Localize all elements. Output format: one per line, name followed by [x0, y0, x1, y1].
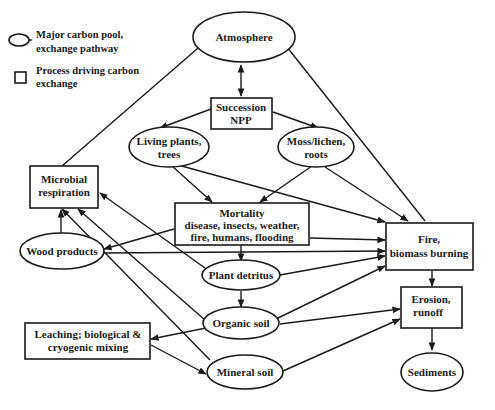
mineral-soil-label: Mineral soil [217, 366, 274, 378]
living-plants-label-1: Living plants, [137, 135, 202, 147]
legend: Major carbon pool, exchange pathway Proc… [9, 29, 139, 89]
erosion-label-1: Erosion, [411, 293, 450, 305]
living-plants-label-2: trees [158, 148, 181, 160]
legend-pool-line2: exchange pathway [36, 43, 119, 54]
edge-organic-erosion [280, 309, 400, 324]
leaching-label-2: cryogenic mixing [48, 341, 129, 353]
node-erosion: Erosion, runoff [401, 287, 462, 328]
edge-mortality-fire [310, 238, 385, 240]
fire-label-1: Fire, [418, 233, 440, 245]
node-microbial-respiration: Microbial respiration [30, 166, 98, 208]
node-mineral-soil: Mineral soil [207, 355, 283, 389]
mortality-label-3: fire, humans, flooding [190, 231, 294, 243]
moss-label-1: Moss/lichen, [287, 135, 346, 147]
node-plant-detritus: Plant detritus [202, 260, 280, 290]
microbial-label-2: respiration [38, 186, 90, 198]
edge-wood-fire [103, 251, 385, 253]
edge-mineral-erosion [283, 319, 400, 371]
organic-soil-label: Organic soil [212, 317, 269, 329]
moss-label-2: roots [304, 148, 328, 160]
edge-leaching-mineral [151, 345, 206, 374]
wood-products-label: Wood products [26, 245, 98, 257]
node-atmosphere: Atmosphere [193, 12, 295, 62]
edge-moss-fire [325, 167, 408, 221]
edge-moss-mortality [260, 166, 312, 202]
microbial-label-1: Microbial [41, 173, 87, 185]
fire-label-2: biomass burning [390, 247, 469, 259]
atmosphere-label: Atmosphere [215, 31, 272, 43]
node-succession-npp: Succession NPP [211, 98, 272, 129]
node-wood-products: Wood products [20, 233, 104, 269]
node-moss-lichen: Moss/lichen, roots [278, 127, 354, 167]
node-mortality: Mortality disease, insects, weather, fir… [175, 203, 309, 245]
plant-detritus-label: Plant detritus [209, 269, 274, 281]
edge-living-mortality [172, 166, 212, 202]
mortality-label-2: disease, insects, weather, [185, 219, 300, 231]
node-living-plants: Living plants, trees [129, 127, 209, 167]
legend-box-icon [15, 72, 26, 83]
node-fire: Fire, biomass burning [386, 223, 473, 270]
mortality-label-1: Mortality [219, 207, 265, 219]
succession-label-1: Succession [216, 101, 266, 113]
sediments-label: Sediments [408, 366, 457, 378]
legend-ellipse-icon [9, 34, 29, 46]
node-leaching: Leaching; biological & cryogenic mixing [25, 323, 150, 359]
legend-pool-line1: Major carbon pool, [36, 29, 123, 40]
edge-organic-fire [276, 266, 385, 319]
edge-succession-moss [273, 112, 318, 128]
erosion-label-2: runoff [413, 306, 443, 318]
succession-label-2: NPP [230, 114, 252, 126]
legend-process-line2: exchange [36, 78, 78, 89]
edge-detritus-fire [280, 256, 385, 275]
node-organic-soil: Organic soil [203, 307, 279, 339]
edge-organic-leaching [151, 328, 206, 339]
legend-process-line1: Process driving carbon [36, 65, 139, 76]
carbon-cycle-diagram: Major carbon pool, exchange pathway Proc… [0, 0, 495, 410]
leaching-label-1: Leaching; biological & [35, 328, 142, 340]
edge-succession-living [160, 109, 211, 128]
node-sediments: Sediments [401, 353, 463, 391]
